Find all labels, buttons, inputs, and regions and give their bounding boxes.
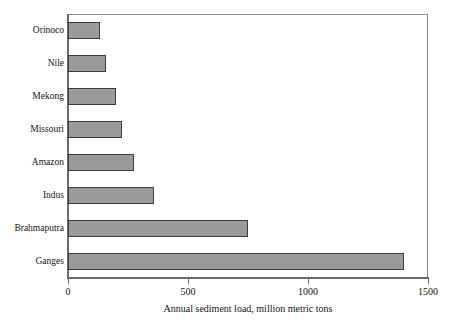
x-tick-0 <box>68 279 69 284</box>
x-tick-1500 <box>428 279 429 284</box>
category-label-amazon: Amazon <box>0 157 64 168</box>
category-label-nile: Nile <box>0 58 64 69</box>
sediment-load-bar-chart: OrinocoNileMekongMissouriAmazonIndusBrah… <box>0 0 453 323</box>
x-tick-label-0: 0 <box>66 286 71 298</box>
category-label-brahmaputra: Brahmaputra <box>0 223 64 234</box>
bar-row <box>68 113 428 146</box>
category-label-ganges: Ganges <box>0 256 64 267</box>
category-label-mekong: Mekong <box>0 91 64 102</box>
x-axis-title: Annual sediment load, million metric ton… <box>68 303 428 315</box>
category-label-indus: Indus <box>0 190 64 201</box>
bar-mekong[interactable] <box>68 88 116 105</box>
bar-row <box>68 80 428 113</box>
x-tick-500 <box>188 279 189 284</box>
bar-nile[interactable] <box>68 55 106 72</box>
y-axis-category-labels: OrinocoNileMekongMissouriAmazonIndusBrah… <box>0 14 64 278</box>
bars-layer <box>68 14 428 278</box>
bar-ganges[interactable] <box>68 253 404 270</box>
bar-row <box>68 146 428 179</box>
x-tick-1000 <box>308 279 309 284</box>
bar-row <box>68 212 428 245</box>
bar-orinoco[interactable] <box>68 22 100 39</box>
category-label-orinoco: Orinoco <box>0 25 64 36</box>
bar-amazon[interactable] <box>68 154 134 171</box>
x-tick-label-500: 500 <box>181 286 196 298</box>
bar-row <box>68 245 428 278</box>
bar-indus[interactable] <box>68 187 154 204</box>
category-label-missouri: Missouri <box>0 124 64 135</box>
x-tick-label-1000: 1000 <box>298 286 318 298</box>
bar-brahmaputra[interactable] <box>68 220 248 237</box>
bar-row <box>68 179 428 212</box>
bar-row <box>68 47 428 80</box>
x-tick-label-1500: 1500 <box>418 286 438 298</box>
bar-missouri[interactable] <box>68 121 122 138</box>
bar-row <box>68 14 428 47</box>
